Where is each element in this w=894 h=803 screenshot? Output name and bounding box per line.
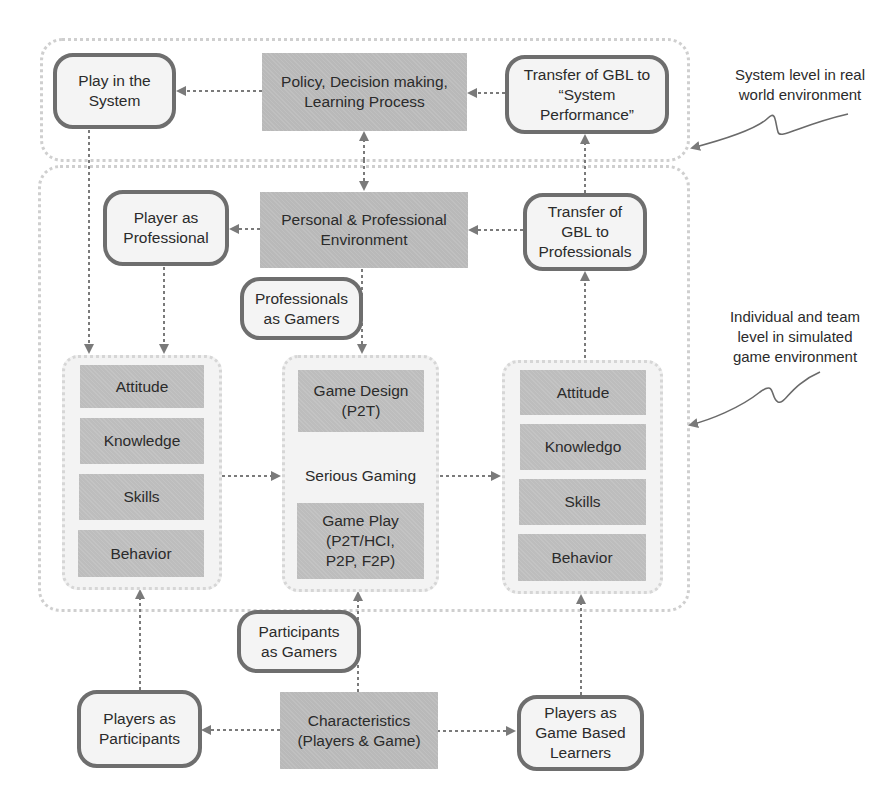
personal-professional-environment-node: Personal & Professional Environment <box>260 192 468 268</box>
left-behavior: Behavior <box>78 530 204 577</box>
individual-team-level-note: Individual and team level in simulated g… <box>705 307 885 373</box>
game-design-node: Game Design (P2T) <box>298 370 424 432</box>
transfer-gbl-system-node: Transfer of GBL to “System Performance” <box>505 55 669 134</box>
participants-as-gamers-node: Participants as Gamers <box>237 610 361 673</box>
left-attitude: Attitude <box>80 365 204 408</box>
system-level-note: System level in real world environment <box>715 65 885 109</box>
play-in-system-node: Play in the System <box>53 53 176 129</box>
player-as-professional-node: Player as Professional <box>103 190 229 266</box>
transfer-gbl-professionals-node: Transfer of GBL to Professionals <box>523 193 647 271</box>
right-knowledge: Knowledgo <box>520 424 646 470</box>
characteristics-node: Characteristics (Players & Game) <box>280 692 438 769</box>
policy-decision-node: Policy, Decision making, Learning Proces… <box>262 53 467 131</box>
right-skills: Skills <box>519 479 646 525</box>
professionals-as-gamers-node: Professionals as Gamers <box>240 277 363 340</box>
players-as-participants-node: Players as Participants <box>77 690 202 768</box>
game-play-node: Game Play (P2T/HCI, P2P, F2P) <box>297 503 424 579</box>
right-attitude: Attitude <box>520 370 646 415</box>
right-behavior: Behavior <box>518 534 646 581</box>
players-as-game-based-learners-node: Players as Game Based Learners <box>517 695 644 771</box>
left-skills: Skills <box>79 474 204 520</box>
serious-gaming-label: Serious Gaming <box>286 462 435 490</box>
left-knowledge: Knowledge <box>80 418 204 464</box>
